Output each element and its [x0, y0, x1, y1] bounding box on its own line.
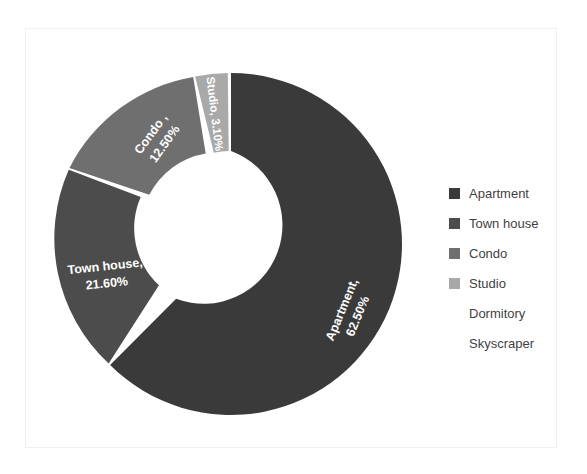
- legend-item-dormitory[interactable]: Dormitory: [449, 298, 579, 328]
- legend-label-town-house: Town house: [469, 216, 538, 231]
- slice-condo[interactable]: [69, 77, 205, 195]
- legend-label-dormitory: Dormitory: [469, 306, 525, 321]
- donut-chart: Apartment, 62.50% Town house, 21.60% Con…: [0, 0, 587, 474]
- legend-swatch-town-house: [449, 218, 460, 229]
- legend-swatch-skyscraper: [449, 338, 460, 349]
- donut-slices: [54, 73, 402, 415]
- legend-label-apartment: Apartment: [469, 186, 529, 201]
- legend-label-skyscraper: Skyscraper: [469, 336, 534, 351]
- legend-item-apartment[interactable]: Apartment: [449, 178, 579, 208]
- legend-item-condo[interactable]: Condo: [449, 238, 579, 268]
- legend-swatch-apartment: [449, 188, 460, 199]
- legend-item-town-house[interactable]: Town house: [449, 208, 579, 238]
- legend-swatch-studio: [449, 278, 460, 289]
- legend-swatch-condo: [449, 248, 460, 259]
- legend-swatch-dormitory: [449, 308, 460, 319]
- legend-item-skyscraper[interactable]: Skyscraper: [449, 328, 579, 358]
- chart-legend: Apartment Town house Condo Studio Dormit…: [449, 178, 579, 358]
- legend-item-studio[interactable]: Studio: [449, 268, 579, 298]
- legend-label-studio: Studio: [469, 276, 506, 291]
- legend-label-condo: Condo: [469, 246, 507, 261]
